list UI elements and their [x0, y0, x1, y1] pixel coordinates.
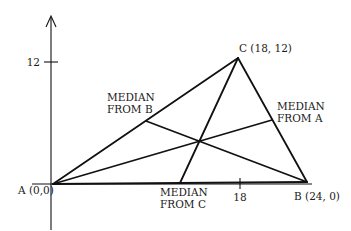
median-from-b — [146, 121, 307, 182]
median-label-b-line1: MEDIAN — [107, 91, 155, 103]
x-tick-label-18: 18 — [233, 191, 246, 203]
vertex-label-b: B (24, 0) — [294, 190, 340, 202]
y-tick-label-12: 12 — [27, 56, 40, 68]
median-label-a-line2: FROM A — [277, 112, 323, 124]
median-label-b-line2: FROM B — [107, 103, 153, 115]
median-label-c-line2: FROM C — [160, 198, 206, 210]
median-label-a-line1: MEDIAN — [277, 100, 325, 112]
vertex-label-c: C (18, 12) — [239, 42, 292, 54]
vertex-label-a: A (0,0) — [17, 184, 54, 196]
median-from-a — [53, 120, 272, 184]
median-label-c-line1: MEDIAN — [160, 186, 208, 198]
triangle-medians-diagram: 12 18 A (0,0) B (24, 0) C (18, 12) MEDIA… — [0, 0, 351, 231]
